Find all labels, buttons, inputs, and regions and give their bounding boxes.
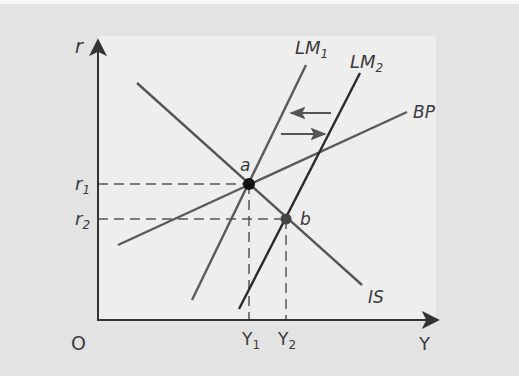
point-a-label: a xyxy=(240,155,250,175)
r1-label: r1 xyxy=(75,173,90,197)
is-label: IS xyxy=(368,287,384,307)
origin-label: O xyxy=(71,332,86,354)
y-axis-label: r xyxy=(75,35,84,57)
lm1-label: LM1 xyxy=(295,37,328,61)
y2-label: Y2 xyxy=(277,329,296,352)
point-b-marker xyxy=(281,214,292,225)
y1-label: Y1 xyxy=(241,329,260,352)
is-lm-bp-diagram: r Y O LM1 LM2 BP IS a b r1 r2 Y1 Y2 xyxy=(0,0,519,376)
point-a-marker xyxy=(243,178,255,190)
x-axis-label: Y xyxy=(418,333,431,354)
bp-label: BP xyxy=(413,102,436,122)
point-b-label: b xyxy=(300,209,311,229)
r2-label: r2 xyxy=(75,208,90,232)
lm2-label: LM2 xyxy=(350,51,383,75)
bp-curve xyxy=(118,112,407,245)
